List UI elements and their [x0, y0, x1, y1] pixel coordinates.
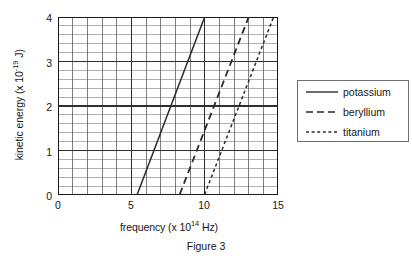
- x-tick-label-5: 5: [119, 200, 143, 210]
- y-axis-title-main: kinetic energy (x 10: [13, 71, 25, 160]
- x-tick-label-10: 10: [192, 200, 216, 210]
- y-axis-title: kinetic energy (x 10-19 J): [11, 14, 25, 196]
- x-tick-label-15: 15: [266, 200, 290, 210]
- legend-label-titanium: titanium: [340, 126, 380, 138]
- plot-canvas: [58, 17, 278, 195]
- x-axis-title-tail: Hz): [199, 221, 218, 233]
- plot-area: [58, 17, 278, 195]
- y-tick-label-4: 4: [30, 13, 52, 23]
- legend-swatch-dashed-icon: [304, 106, 340, 118]
- y-axis-title-exponent: -19: [11, 61, 20, 72]
- figure-3-photoelectric-chart: kinetic energy (x 10-19 J) 0 1 2 3 4 0 5…: [0, 0, 412, 261]
- x-axis-title: frequency (x 1014 Hz): [58, 219, 280, 233]
- figure-caption: Figure 3: [0, 240, 412, 252]
- legend-swatch-solid-icon: [304, 86, 340, 98]
- gridlines-horizontal-major: [58, 62, 278, 151]
- legend-label-potassium: potassium: [340, 86, 391, 98]
- x-tick-label-0: 0: [46, 200, 70, 210]
- legend-label-beryllium: beryllium: [340, 106, 385, 118]
- legend: potassium beryllium titanium: [297, 80, 409, 142]
- legend-swatch-dotted-icon: [304, 126, 340, 138]
- legend-item-potassium: potassium: [304, 83, 406, 101]
- y-tick-label-2: 2: [30, 102, 52, 112]
- x-axis-title-exponent: 14: [191, 219, 199, 228]
- legend-item-titanium: titanium: [304, 123, 406, 141]
- x-axis-title-main: frequency (x 10: [120, 221, 191, 233]
- y-axis-title-tail: J): [13, 49, 25, 60]
- legend-item-beryllium: beryllium: [304, 103, 406, 121]
- y-tick-label-1: 1: [30, 147, 52, 157]
- y-tick-label-3: 3: [30, 58, 52, 68]
